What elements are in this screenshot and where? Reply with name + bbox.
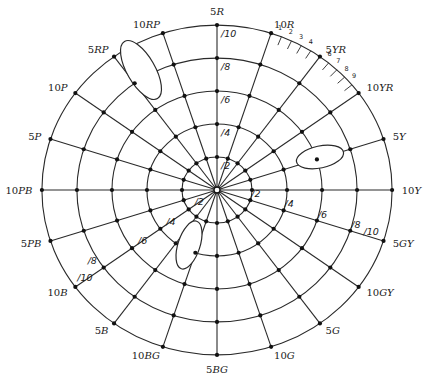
chroma-label-5R-2: /2 xyxy=(220,160,230,171)
hue-tick xyxy=(338,77,345,83)
hue-tick xyxy=(297,45,302,53)
hue-label-5BG: 5BG xyxy=(206,364,228,375)
grid-dot xyxy=(235,215,239,219)
chroma-label-5GY-10: /10 xyxy=(363,226,379,237)
ellipse-yellow xyxy=(294,141,346,172)
hue-subdivision-ticks: 12346789 xyxy=(278,24,356,91)
chroma-label-5GY-6: /6 xyxy=(317,209,327,220)
hue-label-5YR: 5YR xyxy=(326,44,347,55)
grid-dot xyxy=(174,135,178,139)
grid-dot xyxy=(161,31,165,35)
hue-label-5RP: 5RP xyxy=(88,44,109,55)
grid-dot xyxy=(215,155,219,159)
grid-dot xyxy=(110,188,114,192)
spoke-5B xyxy=(114,190,217,323)
hue-label-5B: 5B xyxy=(95,325,109,336)
grid-dot xyxy=(204,157,208,161)
grid-dot xyxy=(215,287,219,291)
grid-dot xyxy=(277,268,281,272)
grid-dot xyxy=(277,108,281,112)
grid-dot xyxy=(282,168,286,172)
grid-dot xyxy=(193,251,197,255)
grid-dot xyxy=(215,89,219,93)
grid-dot xyxy=(269,345,273,349)
hue-label-10RP: 10RP xyxy=(133,19,160,30)
grid-dot xyxy=(381,239,385,243)
hue-tick-label: 8 xyxy=(344,65,348,73)
grid-dot xyxy=(133,295,137,299)
grid-dot xyxy=(148,168,152,172)
spoke-10P xyxy=(75,93,217,190)
hue-tick-label: 7 xyxy=(336,57,340,65)
ellipse-red-purple xyxy=(112,34,169,105)
grid-dot xyxy=(158,227,162,231)
grid-dot xyxy=(235,161,239,165)
grid-dot xyxy=(148,208,152,212)
chroma-label-10B-8: /8 xyxy=(87,255,97,266)
grid-dot xyxy=(215,353,219,357)
chroma-label-10B-6: /6 xyxy=(137,235,147,246)
grid-dot xyxy=(182,198,186,202)
grid-dot xyxy=(256,241,260,245)
hue-label-10PB: 10PB xyxy=(5,185,32,196)
chroma-label-10B-10: /10 xyxy=(76,272,92,283)
spoke-5G xyxy=(217,190,320,323)
grid-dot xyxy=(355,188,359,192)
grid-dot xyxy=(115,218,119,222)
center-point xyxy=(214,187,220,193)
grid-dot xyxy=(320,188,324,192)
hue-tick xyxy=(306,51,311,59)
grid-dot xyxy=(215,122,219,126)
grid-dot xyxy=(82,147,86,151)
grid-dot xyxy=(182,282,186,286)
grid-dot xyxy=(48,137,52,141)
grid-dot xyxy=(158,149,162,153)
grid-dot xyxy=(180,188,184,192)
hue-tick xyxy=(344,85,351,91)
hue-label-5GY: 5GY xyxy=(393,238,415,249)
grid-dot xyxy=(390,188,394,192)
grid-dot xyxy=(130,246,134,250)
hue-label-5R: 5R xyxy=(210,6,224,17)
grid-dot xyxy=(247,282,251,286)
chroma-label-5R-6: /6 xyxy=(220,94,230,105)
chroma-label-10B-2: /2 xyxy=(194,196,204,207)
grid-dot xyxy=(300,130,304,134)
munsell-hue-chroma-diagram: 12346789 5R10R5YR10YR5Y10Y5GY10GY5G10G5B… xyxy=(0,0,428,381)
grid-dot xyxy=(102,110,106,114)
grid-dot xyxy=(297,295,301,299)
grid-dot xyxy=(243,207,247,211)
grid-dot xyxy=(243,169,247,173)
grid-dot xyxy=(215,23,219,27)
grid-dot xyxy=(130,130,134,134)
hue-label-10G: 10G xyxy=(274,350,295,361)
grid-dot xyxy=(328,110,332,114)
hue-label-5P: 5P xyxy=(28,131,41,142)
grid-dot xyxy=(272,227,276,231)
grid-dot xyxy=(381,137,385,141)
grid-dot xyxy=(133,81,137,85)
grid-dot xyxy=(318,321,322,325)
hue-label-5Y: 5Y xyxy=(393,131,407,142)
grid-dot xyxy=(194,215,198,219)
grid-dot xyxy=(153,108,157,112)
spoke-5YR xyxy=(217,57,320,190)
grid-dot xyxy=(115,157,119,161)
grid-dot xyxy=(247,94,251,98)
grid-dot xyxy=(256,135,260,139)
grid-dot xyxy=(315,157,319,161)
chroma-label-10B-4: /4 xyxy=(165,216,175,227)
hue-tick-label: 3 xyxy=(299,33,303,41)
hue-tick-label: 9 xyxy=(352,72,356,80)
hue-label-10P: 10P xyxy=(48,82,68,93)
grid-dot xyxy=(182,94,186,98)
hue-label-5PB: 5PB xyxy=(21,238,41,249)
grid-dot xyxy=(187,207,191,211)
grid-dot xyxy=(215,254,219,258)
hue-label-10YR: 10YR xyxy=(366,82,393,93)
chroma-label-5GY-8: /8 xyxy=(350,219,360,230)
grid-dot xyxy=(300,246,304,250)
grid-dot xyxy=(285,188,289,192)
grid-dot xyxy=(82,229,86,233)
spoke-10RP xyxy=(163,33,217,190)
